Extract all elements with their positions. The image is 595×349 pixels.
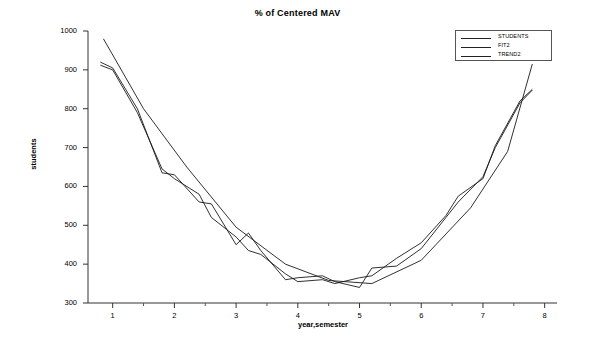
chart-legend: STUDENTS FIT2 TREND2	[455, 30, 552, 61]
legend-label-students: STUDENTS	[498, 33, 528, 39]
y-tick-label: 1000	[41, 26, 77, 35]
legend-label-fit2: FIT2	[498, 42, 510, 48]
x-tick-label: 8	[535, 311, 555, 320]
y-tick-label: 300	[41, 298, 77, 307]
x-tick-label: 7	[473, 311, 493, 320]
x-tick-label: 2	[164, 311, 184, 320]
x-tick-label: 5	[350, 311, 370, 320]
chart-container: % of Centered MAV students year,semester…	[0, 0, 595, 349]
legend-swatch-line-students	[461, 38, 491, 39]
y-tick-label: 800	[41, 104, 77, 113]
y-tick-label: 900	[41, 65, 77, 74]
y-tick-label: 600	[41, 181, 77, 190]
y-tick-label: 500	[41, 220, 77, 229]
series-line-fit2	[100, 65, 532, 283]
series-line-students	[100, 62, 532, 287]
series-line-trend2	[103, 39, 532, 284]
legend-swatch-line-fit2	[461, 47, 491, 48]
legend-swatch-line-trend2	[461, 56, 491, 57]
x-tick-label: 6	[411, 311, 431, 320]
legend-label-trend2: TREND2	[498, 51, 521, 57]
legend-item-trend2: TREND2	[456, 51, 553, 61]
y-tick-label: 400	[41, 259, 77, 268]
y-tick-label: 700	[41, 143, 77, 152]
x-tick-label: 3	[226, 311, 246, 320]
x-tick-label: 4	[288, 311, 308, 320]
x-tick-label: 1	[103, 311, 123, 320]
